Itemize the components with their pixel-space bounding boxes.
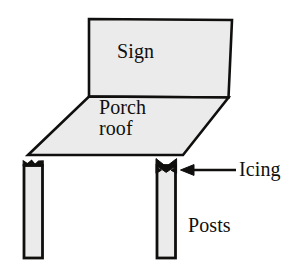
- left-icing-mark-icon: [23, 160, 43, 165]
- sign-shape: [89, 19, 232, 98]
- porch-roof-label: Porchroof: [99, 97, 146, 139]
- icing-label: Icing: [239, 159, 281, 179]
- porch-roof-label-line2: roof: [99, 117, 133, 139]
- diagram-canvas: Sign Porchroof Icing Posts: [0, 0, 308, 276]
- right-post-shape: [157, 166, 176, 259]
- posts-label: Posts: [188, 215, 231, 235]
- sign-label: Sign: [117, 41, 154, 61]
- icing-arrow-head-icon: [181, 165, 195, 176]
- left-post-shape: [24, 166, 43, 259]
- porch-roof-label-line1: Porch: [99, 96, 146, 118]
